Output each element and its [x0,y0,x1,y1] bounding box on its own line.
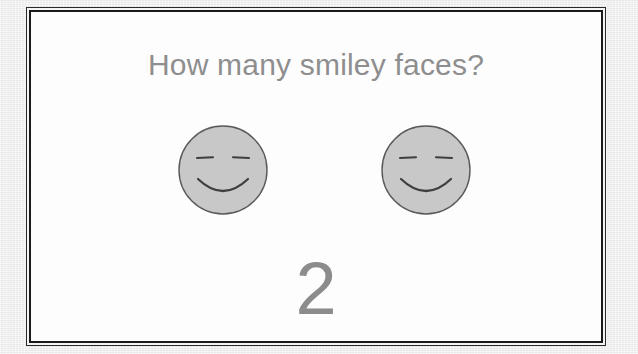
slide-canvas: How many smiley faces? [31,12,601,341]
smiley-face-group [31,124,601,224]
slide-frame-outer: How many smiley faces? [26,7,606,346]
smiley-face-1 [177,124,269,216]
slide-page: How many smiley faces? [0,0,638,354]
face-circle [382,126,470,214]
left-eye-icon [400,157,416,158]
right-eye-icon [436,157,452,158]
smiley-face-2 [380,124,472,216]
right-eye-icon [233,157,249,158]
slide-frame-inner: How many smiley faces? [29,10,603,343]
left-eye-icon [197,157,213,158]
face-circle [179,126,267,214]
count-answer: 2 [31,252,601,326]
page-title: How many smiley faces? [31,48,601,82]
